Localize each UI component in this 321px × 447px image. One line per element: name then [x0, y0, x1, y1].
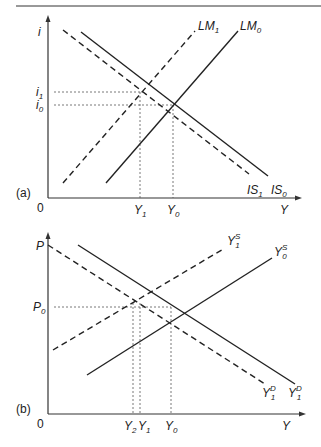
panel-b: P Y 0 (b) P0 Y2 Y1 Y0 YS1 YS0 YD1 YD1	[16, 232, 306, 435]
tick-Y1b: Y1	[138, 419, 150, 435]
curve-YD-solid	[78, 245, 295, 384]
tick-Y0: Y0	[167, 203, 180, 219]
label-LM1: LM1	[198, 19, 219, 35]
curve-YD-dashed	[48, 245, 265, 384]
curve-YS0	[87, 258, 272, 375]
label-YD-dashed: YD1	[262, 384, 276, 402]
label-LM0: LM0	[240, 19, 262, 35]
curve-LM0	[106, 31, 238, 183]
panel-a-y-arrow-icon	[46, 15, 51, 22]
tick-Y2: Y2	[124, 419, 137, 435]
label-IS1: IS1	[247, 183, 263, 199]
panel-a-y-label: i	[38, 25, 41, 39]
panel-a-origin: 0	[37, 201, 44, 215]
panel-a: i Y 0 (a) i1 i0 Y1 Y0 LM1 LM0 IS1 IS0	[16, 15, 302, 219]
panel-a-x-arrow-icon	[295, 196, 302, 201]
curve-LM1	[63, 31, 195, 183]
panel-b-y-arrow-icon	[46, 232, 51, 239]
panel-b-x-label: Y	[282, 419, 291, 433]
label-Y1S: YS1	[227, 232, 241, 250]
panel-b-x-arrow-icon	[299, 412, 306, 417]
tick-Y0b: Y0	[165, 419, 178, 435]
panel-b-y-label: P	[36, 239, 44, 253]
tick-Y1: Y1	[134, 203, 146, 219]
tick-P0: P0	[33, 300, 46, 316]
label-Y0S: YS0	[274, 243, 288, 261]
label-IS0: IS0	[271, 183, 287, 199]
islm-ad-as-diagram: i Y 0 (a) i1 i0 Y1 Y0 LM1 LM0 IS1 IS0 P …	[0, 0, 321, 447]
panel-b-tag: (b)	[16, 402, 31, 416]
curve-IS1	[63, 30, 249, 174]
label-YD-solid: YD1	[288, 384, 302, 402]
panel-a-tag: (a)	[16, 186, 31, 200]
panel-a-x-label: Y	[280, 203, 289, 217]
curve-YS1	[53, 248, 225, 350]
panel-b-origin: 0	[37, 417, 44, 431]
